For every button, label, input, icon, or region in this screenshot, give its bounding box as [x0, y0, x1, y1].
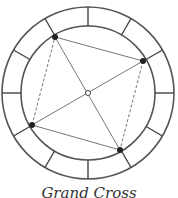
center-point	[86, 91, 91, 96]
division-tick	[122, 19, 132, 35]
point-lower-left	[29, 122, 35, 128]
wheel-diagram	[0, 0, 178, 198]
division-tick	[146, 127, 162, 137]
division-tick	[122, 151, 132, 167]
side-bottom	[32, 125, 120, 150]
division-tick	[146, 50, 162, 60]
point-lower-right	[117, 147, 123, 153]
division-tick	[14, 127, 30, 137]
point-upper-left	[52, 34, 58, 40]
division-tick	[45, 19, 55, 35]
figure-caption: Grand Cross	[0, 186, 178, 198]
point-upper-right	[140, 58, 146, 64]
division-tick	[45, 151, 55, 167]
division-tick	[14, 50, 30, 60]
